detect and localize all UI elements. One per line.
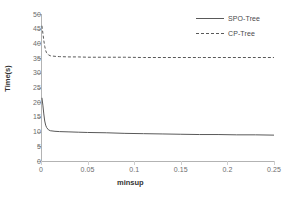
- legend-label: SPO-Tree: [228, 15, 260, 22]
- legend-item-spo-tree[interactable]: SPO-Tree: [196, 11, 288, 26]
- x-tick-label: 0.15: [166, 166, 196, 173]
- x-tick-mark: [181, 161, 182, 165]
- series-line-spo-tree: [42, 98, 274, 135]
- y-tick-label: 45: [19, 25, 41, 32]
- x-tick-mark: [274, 161, 275, 165]
- y-tick-label: 25: [19, 84, 41, 91]
- y-tick-label: 50: [19, 11, 41, 18]
- y-tick-label: 40: [19, 40, 41, 47]
- x-axis-line: [41, 161, 275, 162]
- y-axis-title: Time(s): [3, 56, 12, 102]
- x-tick-mark: [227, 161, 228, 165]
- y-tick-label: 30: [19, 69, 41, 76]
- x-tick-mark: [134, 161, 135, 165]
- legend-item-cp-tree[interactable]: CP-Tree: [196, 26, 288, 41]
- y-tick-label: 0: [19, 158, 41, 165]
- y-tick-label: 35: [19, 55, 41, 62]
- y-tick-label: 15: [19, 113, 41, 120]
- x-tick-label: 0.05: [73, 166, 103, 173]
- x-tick-label: 0.2: [212, 166, 242, 173]
- x-tick-mark: [88, 161, 89, 165]
- x-tick-label: 0.25: [259, 166, 289, 173]
- x-tick-mark: [41, 161, 42, 165]
- y-tick-label: 5: [19, 143, 41, 150]
- legend-line-solid-icon: [196, 18, 224, 19]
- x-tick-label: 0.1: [119, 166, 149, 173]
- legend-line-dashed-icon: [196, 33, 224, 34]
- legend: SPO-Tree CP-Tree: [196, 11, 288, 41]
- x-tick-label: 0: [26, 166, 56, 173]
- chart-container: 05101520253035404550 00.050.10.150.20.25…: [0, 0, 294, 199]
- y-tick-label: 20: [19, 99, 41, 106]
- y-tick-label: 10: [19, 128, 41, 135]
- x-axis-title: minsup: [117, 178, 144, 187]
- legend-label: CP-Tree: [228, 30, 255, 37]
